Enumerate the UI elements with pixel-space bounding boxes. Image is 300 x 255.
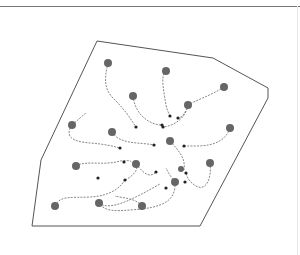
sink-node xyxy=(161,125,164,128)
sink-node xyxy=(154,170,157,173)
source-node xyxy=(129,92,137,100)
sink-node xyxy=(118,146,121,149)
source-node xyxy=(68,121,76,129)
source-node xyxy=(132,160,140,168)
connection-path xyxy=(184,128,230,146)
sink-node xyxy=(182,144,185,147)
sink-node xyxy=(164,186,167,189)
source-node xyxy=(206,159,214,167)
sink-node xyxy=(176,116,179,119)
connection-path xyxy=(133,96,162,125)
connection-path xyxy=(99,184,160,206)
sink-node xyxy=(184,171,187,174)
paths-layer xyxy=(55,63,230,211)
sink-node xyxy=(122,160,125,163)
sink-node xyxy=(152,143,155,146)
source-node xyxy=(95,199,103,207)
connection-path xyxy=(163,105,188,127)
sink-node xyxy=(183,180,186,183)
diagram-canvas xyxy=(0,0,300,255)
source-node xyxy=(171,178,179,186)
source-node xyxy=(178,166,184,172)
source-node xyxy=(166,137,174,145)
connection-path xyxy=(112,132,154,145)
source-node xyxy=(104,59,112,67)
boundary-polygon xyxy=(32,41,268,226)
source-node xyxy=(138,202,146,210)
sink-node xyxy=(123,178,126,181)
source-node xyxy=(72,162,80,170)
source-node xyxy=(184,101,192,109)
connection-path xyxy=(163,71,170,116)
connection-path xyxy=(170,141,184,170)
connection-path xyxy=(186,163,210,187)
source-node xyxy=(162,67,170,75)
source-node xyxy=(51,202,59,210)
connection-path xyxy=(99,182,175,211)
source-node xyxy=(108,128,116,136)
connection-path xyxy=(115,196,142,206)
sink-node xyxy=(168,114,171,117)
sources-layer xyxy=(51,59,234,210)
source-node xyxy=(226,124,234,132)
sink-node xyxy=(96,176,99,179)
source-node xyxy=(220,83,228,91)
sink-node xyxy=(134,125,137,128)
connection-path xyxy=(55,180,125,206)
connection-path xyxy=(188,87,224,105)
